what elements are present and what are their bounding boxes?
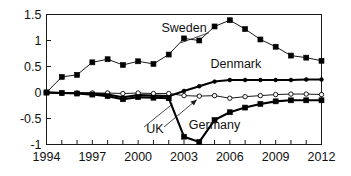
annotation-germany: Germany xyxy=(189,118,241,132)
data-point xyxy=(151,95,156,100)
data-point xyxy=(227,18,232,23)
data-point xyxy=(319,58,324,63)
data-point xyxy=(289,78,293,82)
data-point xyxy=(319,92,323,96)
x-tick-label: 2009 xyxy=(262,150,290,164)
data-point xyxy=(136,59,141,64)
data-point xyxy=(289,92,293,96)
chart-figure: 1.510.50-0.5-1 1994199720002003200620092… xyxy=(0,0,351,176)
data-point xyxy=(182,134,187,139)
data-point xyxy=(59,91,64,96)
data-point xyxy=(213,80,217,84)
x-tick-label: 2000 xyxy=(124,150,152,164)
data-point xyxy=(304,55,309,60)
data-point xyxy=(258,37,263,42)
data-point xyxy=(105,94,110,99)
data-point xyxy=(304,92,308,96)
data-point xyxy=(151,61,156,66)
x-tick-label: 2003 xyxy=(170,150,198,164)
data-point xyxy=(274,78,278,82)
data-point xyxy=(227,110,232,115)
data-point xyxy=(258,78,262,82)
data-point xyxy=(121,91,125,95)
line-chart-svg: 1.510.50-0.5-1 1994199720002003200620092… xyxy=(0,0,351,176)
y-tick-label: 0 xyxy=(35,86,42,100)
y-tick-label: 1.5 xyxy=(24,8,41,22)
data-point xyxy=(197,38,202,43)
data-point xyxy=(228,96,232,100)
data-point xyxy=(75,72,80,77)
data-point xyxy=(243,78,247,82)
data-point xyxy=(197,94,201,98)
data-point xyxy=(136,95,141,100)
data-point xyxy=(273,92,277,96)
y-axis-ticks xyxy=(47,15,52,145)
data-point xyxy=(212,93,216,97)
x-tick-label: 2006 xyxy=(216,150,244,164)
data-point xyxy=(273,99,278,104)
data-point xyxy=(258,101,263,106)
data-point xyxy=(258,93,262,97)
data-point xyxy=(243,94,247,98)
y-tick-label: 1 xyxy=(35,34,42,48)
data-point xyxy=(120,62,125,67)
data-point xyxy=(90,60,95,65)
x-axis-tick-labels: 1994199720002003200620092012 xyxy=(33,150,336,164)
x-tick-label: 1997 xyxy=(78,150,106,164)
data-point xyxy=(304,98,309,103)
data-point xyxy=(75,91,80,96)
data-point xyxy=(44,90,49,95)
data-point xyxy=(120,97,125,102)
annotation-sweden: Sweden xyxy=(161,21,206,35)
annotation-denmark: Denmark xyxy=(211,57,262,71)
data-point xyxy=(197,84,201,88)
data-point xyxy=(59,74,64,79)
data-point xyxy=(182,36,187,41)
data-point xyxy=(320,78,324,82)
x-axis-ticks xyxy=(47,140,322,145)
data-point xyxy=(166,96,171,101)
data-point xyxy=(288,98,293,103)
data-series-layer xyxy=(44,18,324,145)
data-point xyxy=(228,78,232,82)
y-tick-label: -0.5 xyxy=(20,112,42,126)
data-point xyxy=(105,57,110,62)
data-point xyxy=(197,139,202,144)
annotation-uk: UK xyxy=(146,122,164,136)
x-tick-label: 1994 xyxy=(33,150,61,164)
data-point xyxy=(182,93,186,97)
data-point xyxy=(243,27,248,32)
y-tick-label: 0.5 xyxy=(24,60,41,74)
y-axis-tick-labels: 1.510.50-0.5-1 xyxy=(20,8,42,152)
x-tick-label: 2012 xyxy=(308,150,336,164)
data-point xyxy=(166,52,171,57)
data-point xyxy=(90,92,95,97)
data-point xyxy=(212,24,217,29)
data-point xyxy=(273,44,278,49)
data-point xyxy=(182,89,186,93)
data-point xyxy=(319,98,324,103)
data-point xyxy=(304,78,308,82)
data-point xyxy=(288,53,293,58)
data-point xyxy=(243,105,248,110)
data-point xyxy=(167,91,171,95)
